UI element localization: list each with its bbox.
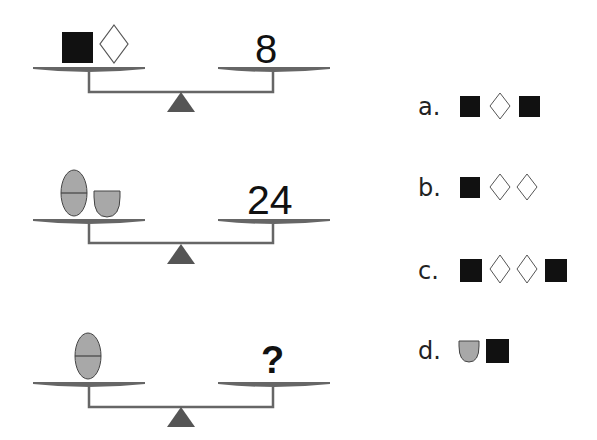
scale-1	[33, 25, 330, 112]
scale-beam	[89, 224, 273, 243]
balance-scales-diagram	[0, 0, 597, 440]
scale-3	[33, 333, 330, 427]
option-c[interactable]: c.	[418, 259, 439, 283]
left-pan	[33, 67, 145, 72]
white-diamond-icon	[490, 93, 510, 119]
scale-1-value: 8	[255, 29, 277, 69]
black-square-icon	[545, 259, 567, 282]
fulcrum-triangle	[167, 92, 195, 112]
fulcrum-triangle	[167, 407, 195, 427]
white-diamond-icon	[490, 174, 510, 200]
gray-bowl-icon	[459, 341, 479, 362]
option-c-shapes	[460, 255, 567, 283]
left-pan	[33, 219, 145, 224]
fulcrum-triangle	[167, 244, 195, 264]
gray-bowl-icon	[94, 191, 120, 217]
white-diamond-icon	[490, 255, 510, 283]
option-b-shapes	[460, 174, 537, 200]
white-diamond-icon	[517, 255, 537, 283]
black-square-icon	[486, 339, 509, 363]
left-pan	[33, 382, 145, 387]
right-pan	[218, 382, 330, 387]
scale-2-value: 24	[247, 180, 293, 221]
black-square-icon	[519, 96, 540, 117]
option-a-shapes	[460, 93, 540, 119]
option-a[interactable]: a.	[418, 95, 440, 119]
option-d[interactable]: d.	[418, 339, 441, 363]
scale-beam	[89, 72, 273, 92]
scale-beam	[89, 387, 273, 407]
option-b[interactable]: b.	[418, 176, 441, 200]
black-square-icon	[460, 177, 480, 198]
black-square-icon	[460, 259, 482, 282]
white-diamond-icon	[517, 174, 537, 200]
option-d-shapes	[459, 339, 509, 363]
black-square-icon	[460, 96, 480, 117]
white-diamond-icon	[100, 25, 128, 63]
black-square-icon	[62, 32, 93, 63]
scale-3-value: ?	[261, 341, 284, 379]
